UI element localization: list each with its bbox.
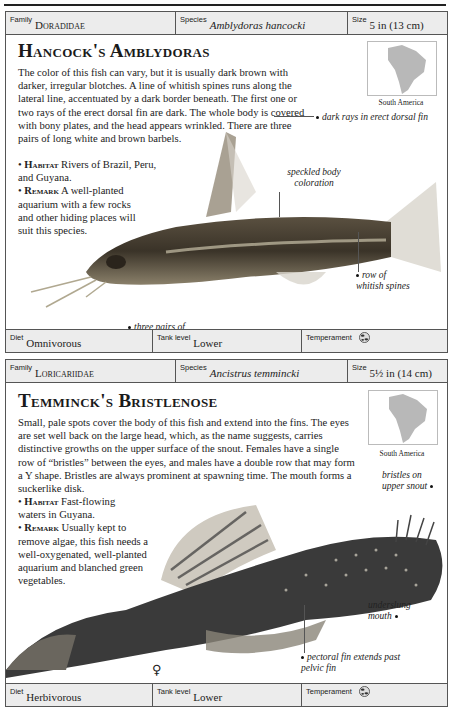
callout-line <box>358 232 359 272</box>
family-field: Family Loricariidae <box>6 360 176 382</box>
size-field: Size 5½ in (14 cm) <box>348 360 447 382</box>
map-label: South America <box>356 98 446 107</box>
diet-field: Diet Omnivorous <box>6 330 153 352</box>
callout-dot-icon <box>395 615 398 618</box>
callout-whitish-spines: row of whitish spines <box>356 270 416 292</box>
species-field: Species Amblydoras hancocki <box>176 12 348 34</box>
family-field: Family Doradidae <box>6 12 176 34</box>
callout-pectoral-fin: pectoral fin extends past pelvic fin <box>301 652 406 674</box>
callout-dot-icon <box>301 656 304 659</box>
size-value: 5 in (13 cm) <box>370 19 424 31</box>
page-title: Temminck's Bristlenose <box>18 390 217 412</box>
card-header: Family Doradidae Species Amblydoras hanc… <box>6 12 447 35</box>
callout-speckled-body: speckled body coloration <box>274 167 354 189</box>
diet-field: Diet Herbivorous <box>6 684 153 706</box>
callout-bristles: bristles on upper snout <box>382 470 442 492</box>
card-header: Family Loricariidae Species Ancistrus te… <box>6 360 447 383</box>
diet-value: Herbivorous <box>26 691 81 703</box>
species-value: Ancistrus temmincki <box>210 367 300 379</box>
temperament-label: Temperament <box>306 687 352 696</box>
size-field: Size 5 in (13 cm) <box>348 12 447 34</box>
amblydoras-fish-image <box>26 122 446 322</box>
range-map <box>367 41 437 96</box>
family-value: Loricariidae <box>35 367 94 379</box>
top-rule <box>4 4 446 6</box>
species-card-temmincks-bristlenose: Family Loricariidae Species Ancistrus te… <box>5 359 448 707</box>
female-symbol-icon: ♀ <box>152 662 162 677</box>
size-value: 5½ in (14 cm) <box>370 367 432 379</box>
card-footer: Diet Omnivorous Tank level Lower Tempera… <box>6 329 447 352</box>
map-label: South America <box>357 449 447 458</box>
callout-dot-icon <box>316 116 319 119</box>
species-card-hancocks-amblydoras: Family Doradidae Species Amblydoras hanc… <box>5 11 448 353</box>
south-america-map-icon <box>369 391 437 444</box>
temperament-field: Temperament <box>302 330 447 352</box>
peaceful-fish-icon <box>359 332 370 343</box>
diet-value: Omnivorous <box>26 337 81 349</box>
description-text: Small, pale spots cover the body of this… <box>18 417 355 494</box>
card-footer: Diet Herbivorous Tank level Lower Temper… <box>6 683 447 706</box>
size-label: Size <box>352 15 367 24</box>
description: Small, pale spots cover the body of this… <box>18 416 358 495</box>
tank-level-label: Tank level <box>157 333 190 342</box>
page-title: Hancock's Amblydoras <box>18 40 210 62</box>
diet-label: Diet <box>10 333 23 342</box>
range-map <box>368 390 438 445</box>
temperament-label: Temperament <box>306 333 352 342</box>
callout-dot-icon <box>356 274 359 277</box>
species-field: Species Ancistrus temmincki <box>176 360 348 382</box>
temperament-field: Temperament <box>302 684 447 706</box>
callout-line <box>304 605 305 653</box>
family-label: Family <box>10 363 32 372</box>
tank-level-value: Lower <box>193 691 222 703</box>
tank-level-field: Tank level Lower <box>153 330 302 352</box>
tank-level-value: Lower <box>193 337 222 349</box>
south-america-map-icon <box>368 42 436 95</box>
family-value: Doradidae <box>35 19 85 31</box>
peaceful-fish-icon <box>359 686 370 697</box>
callout-underslung-mouth: underslung mouth <box>368 600 418 622</box>
species-label: Species <box>180 15 207 24</box>
diet-label: Diet <box>10 687 23 696</box>
tank-level-label: Tank level <box>157 687 190 696</box>
callout-line <box>279 192 280 217</box>
callout-line <box>274 116 314 117</box>
callout-dark-rays: dark rays in erect dorsal fin <box>316 112 428 123</box>
tank-level-field: Tank level Lower <box>153 684 302 706</box>
family-label: Family <box>10 15 32 24</box>
callout-dot-icon <box>430 485 433 488</box>
size-label: Size <box>352 363 367 372</box>
species-label: Species <box>180 363 207 372</box>
species-value: Amblydoras hancocki <box>210 19 306 31</box>
